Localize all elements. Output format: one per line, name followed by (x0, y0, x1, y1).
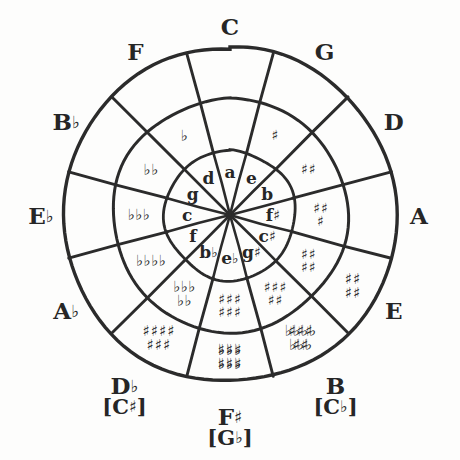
accidental-glyph: ♭ (71, 300, 79, 320)
key-signature-ks-eb: ♭♭♭ (128, 208, 151, 222)
accidental-row: ♯♯♯ (218, 357, 243, 371)
minor-key-label-c-min[interactable]: c (182, 207, 192, 224)
major-key-name: D (384, 109, 404, 132)
minor-key-label-gs-min[interactable]: g♯ (242, 244, 261, 261)
accidental-row: ♯♯ (345, 286, 362, 300)
accidental-row: ♭♭ (173, 294, 196, 308)
major-key-label-b[interactable]: B[C♭] (313, 373, 357, 416)
major-key-name: F (127, 40, 143, 63)
accidental-glyph: ♯ (129, 396, 137, 415)
key-signature-ks-e-outer: ♯♯♯♯ (345, 272, 362, 301)
major-key-label-bb[interactable]: B♭ (53, 109, 80, 132)
major-key-label-c[interactable]: C (221, 15, 239, 38)
accidental-row: ♭♭ (144, 162, 159, 176)
accidental-row: ♯♯ (264, 294, 287, 307)
outer-spoke-11 (187, 54, 213, 153)
key-signature-ks-bb: ♭♭ (144, 162, 159, 176)
accidental-glyph: ♯ (234, 407, 242, 427)
accidental-row: ♯♯ (301, 261, 317, 274)
key-signature-ks-e: ♯♯♯♯ (301, 247, 317, 274)
major-key-label-ab[interactable]: A♭ (53, 298, 79, 321)
major-key-label-db[interactable]: D♭[C♯] (102, 373, 146, 416)
enharmonic-key-name: [C♭] (313, 395, 357, 416)
accidental-row: ♯♯♯ (142, 338, 175, 352)
major-key-name: A♭ (53, 298, 79, 321)
enharmonic-key-name: [G♭] (207, 427, 252, 448)
minor-key-label-bb-min[interactable]: b♭ (199, 244, 218, 261)
minor-key-name: d (203, 167, 215, 187)
major-key-name: E♭ (28, 204, 54, 227)
minor-key-name: b (261, 183, 273, 203)
minor-key-label-e-min[interactable]: e (246, 169, 257, 186)
key-signature-ks-cs: ♯♯♯♯♯♯♯ (142, 324, 175, 353)
wheel-graphic (0, 0, 460, 460)
minor-key-name: f (189, 226, 196, 246)
minor-key-name: c♯ (259, 226, 276, 246)
accidental-glyph: ♯ (254, 244, 261, 260)
minor-key-label-g-min[interactable]: g (187, 185, 199, 202)
key-signature-ks-fs: ♯♯♯♯♯♯ (218, 293, 241, 320)
major-key-name: A (410, 204, 428, 227)
minor-key-label-b-min[interactable]: b (261, 185, 273, 202)
major-key-label-fs[interactable]: F♯[G♭] (207, 405, 252, 448)
major-key-label-d[interactable]: D (384, 109, 404, 132)
key-signature-ks-fs-outer: ♯♯♯♯♯♯ (218, 343, 243, 372)
minor-key-label-cs-min[interactable]: c♯ (259, 228, 276, 245)
accidental-glyph: ♭ (232, 249, 239, 265)
accidental-glyph: ♭ (46, 206, 54, 226)
key-signature-ks-db: ♭♭♭♭♭ (173, 280, 196, 309)
accidental-row: ♭♭♭♭ (136, 253, 166, 267)
minor-key-name: e (246, 167, 257, 187)
minor-key-name: f♯ (266, 205, 280, 225)
major-key-name: B♭ (53, 109, 80, 132)
major-key-label-f[interactable]: F (127, 40, 143, 63)
major-key-label-e[interactable]: E (385, 298, 403, 321)
outer-spoke-10 (112, 97, 184, 169)
key-signature-ks-ab: ♭♭♭♭ (136, 253, 166, 267)
major-key-name: C (221, 15, 239, 38)
accidental-glyph: ♯ (273, 207, 280, 223)
key-signature-ks-f: ♭ (181, 129, 189, 143)
enharmonic-key-name: [C♯] (102, 395, 146, 416)
major-key-label-g[interactable]: G (315, 40, 335, 63)
accidental-glyph: ♭ (72, 111, 80, 131)
accidental-row: ♯♯♯ (218, 306, 241, 319)
outer-spoke-1 (276, 97, 348, 169)
outer-spoke-0 (247, 54, 273, 153)
accidental-glyph: ♭ (130, 375, 138, 395)
minor-key-label-a-min[interactable]: a (224, 164, 235, 181)
minor-key-name: g (187, 183, 199, 203)
minor-key-name: c (182, 205, 192, 225)
minor-key-name: g♯ (242, 242, 261, 262)
major-key-label-eb[interactable]: E♭ (28, 204, 54, 227)
circle-of-fifths-diagram: CGDAEB[C♭]F♯[G♭]D♭[C♯]A♭E♭B♭Faebf♯c♯g♯e♭… (0, 0, 460, 460)
minor-key-label-eb-min[interactable]: e♭ (221, 249, 238, 266)
minor-key-name: a (224, 162, 235, 182)
minor-key-label-d-min[interactable]: d (203, 169, 215, 186)
major-key-name: G (315, 40, 335, 63)
minor-key-label-f-min[interactable]: f (189, 228, 196, 245)
accidental-row: ♭ (181, 129, 189, 143)
accidental-glyph: ♭ (235, 428, 243, 447)
key-signature-ks-b: ♯♯♯♯♯ (264, 281, 287, 308)
accidental-row: ♭♭♭ (128, 208, 151, 222)
key-signature-ks-a: ♯♯♯ (313, 202, 329, 229)
minor-key-name: b♭ (199, 242, 218, 262)
key-signature-ks-g: ♯ (272, 130, 280, 143)
key-signature-ks-b-outer: ♯♯♯♯♯ (289, 324, 314, 353)
accidental-glyph: ♭ (340, 396, 348, 415)
accidental-row: ♯♯ (289, 338, 314, 352)
major-key-label-a[interactable]: A (410, 204, 428, 227)
accidental-glyph: ♯ (269, 228, 276, 244)
major-key-name: E (385, 298, 403, 321)
accidental-row: ♯ (313, 215, 329, 228)
accidental-row: ♯ (272, 130, 280, 143)
accidental-glyph: ♭ (211, 244, 218, 260)
accidental-row: ♯♯ (301, 163, 317, 176)
key-signature-ks-d: ♯♯ (301, 163, 317, 176)
minor-key-label-fs-min[interactable]: f♯ (266, 207, 280, 224)
minor-key-name: e♭ (221, 247, 238, 267)
